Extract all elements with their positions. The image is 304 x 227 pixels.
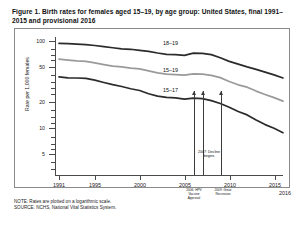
annotation-line-decline-begins xyxy=(203,91,204,175)
annotation-decline-begins: 2007: Decline begins xyxy=(189,150,229,159)
annotation-line-hpv-vaccine-approval xyxy=(194,91,195,175)
series-label-15-17: 15–17 xyxy=(163,87,178,93)
annotation-great-recession: 2009: Great Recession xyxy=(207,189,239,197)
x-tick-label-2016: 2016 xyxy=(270,190,300,196)
chart-plot-area: 100 50 20 10 5 Rate per 1,000 females 19… xyxy=(14,28,290,188)
figure-page: Figure 1. Birth rates for females aged 1… xyxy=(0,0,304,227)
series-line-15-17 xyxy=(59,77,283,133)
chart-note: NOTE: Rates are plotted on a logarithmic… xyxy=(14,199,304,205)
chart-series-group xyxy=(15,29,291,189)
annotation-decline-begins-line2: begins xyxy=(189,154,229,158)
annotation-line-great-recession xyxy=(221,91,222,175)
annotation-recession-line2: Recession xyxy=(207,193,239,197)
chart-source: SOURCE: NCHS, National Vital Statistics … xyxy=(14,205,304,211)
page-title: Figure 1. Birth rates for females aged 1… xyxy=(12,8,294,25)
series-label-15-19: 15–19 xyxy=(163,67,178,73)
series-label-18-19: 18–19 xyxy=(163,40,178,46)
